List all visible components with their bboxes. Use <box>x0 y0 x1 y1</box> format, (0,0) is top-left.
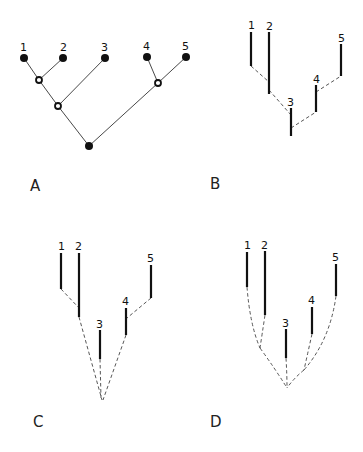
panel-letter-a: A <box>30 177 41 195</box>
branch-a-12 <box>39 80 58 106</box>
dashed-link-b-1-2 <box>251 66 269 82</box>
tip-node-a-3 <box>101 54 109 62</box>
tip-node-a-2 <box>59 54 67 62</box>
tip-label-d-5: 5 <box>332 251 339 264</box>
tip-label-c-3: 3 <box>96 318 103 331</box>
tip-node-a-4 <box>143 53 151 61</box>
tip-node-a-5 <box>182 53 190 61</box>
tip-label-b-2: 2 <box>266 20 273 33</box>
panel-a: 1 2 3 4 5 A <box>20 40 190 195</box>
branch-a-5 <box>158 57 186 83</box>
dashed-link-c-4-5 <box>127 298 151 318</box>
panel-d: 1 2 3 4 5 D <box>210 239 339 431</box>
panel-b: 1 2 3 4 5 B <box>210 19 345 193</box>
dashed-link-b-3-4 <box>291 112 316 128</box>
tip-label-c-2: 2 <box>75 240 82 253</box>
tip-label-a-2: 2 <box>60 41 67 54</box>
tip-label-b-1: 1 <box>248 19 255 32</box>
tip-label-b-4: 4 <box>313 73 320 86</box>
tip-label-d-2: 2 <box>261 239 268 252</box>
branch-a-3 <box>58 58 105 106</box>
panel-letter-b: B <box>210 175 220 193</box>
panel-letter-c: C <box>33 413 43 431</box>
panel-letter-d: D <box>210 413 222 431</box>
tip-label-c-1: 1 <box>58 240 65 253</box>
root-node-a <box>85 142 93 150</box>
tip-label-d-1: 1 <box>244 239 251 252</box>
dashed-curve-d-5 <box>304 296 336 370</box>
dashed-curve-d-1 <box>247 287 260 348</box>
tip-node-a-1 <box>20 54 28 62</box>
dashed-link-c-4-root <box>103 335 126 400</box>
internal-node-a-12 <box>36 77 42 83</box>
branch-a-4 <box>147 57 158 83</box>
dashed-curve-d-3-root <box>286 358 287 388</box>
tip-label-a-3: 3 <box>101 41 108 54</box>
tip-label-b-3: 3 <box>287 96 294 109</box>
branch-a-45 <box>89 83 158 146</box>
dashed-link-c-1-2 <box>61 289 79 308</box>
phylogeny-figure: 1 2 3 4 5 A 1 2 3 4 5 B <box>0 0 363 452</box>
branch-a-123 <box>58 106 89 146</box>
tip-label-a-1: 1 <box>20 41 27 54</box>
tip-label-d-3: 3 <box>282 317 289 330</box>
panel-c: 1 2 3 4 5 C <box>33 240 154 431</box>
tip-label-a-5: 5 <box>182 40 189 53</box>
dashed-curve-d-12-root <box>260 348 287 388</box>
internal-node-a-123 <box>55 103 61 109</box>
tip-label-b-5: 5 <box>338 32 345 45</box>
tip-label-a-4: 4 <box>143 40 150 53</box>
panel-a-branches <box>24 57 186 146</box>
branch-a-2 <box>39 58 63 80</box>
dashed-curve-d-45-root <box>287 370 304 388</box>
tip-label-c-4: 4 <box>122 295 129 308</box>
internal-node-a-45 <box>155 80 161 86</box>
dashed-curve-d-2 <box>260 315 265 348</box>
tip-label-d-4: 4 <box>308 294 315 307</box>
tip-label-c-5: 5 <box>147 252 154 265</box>
